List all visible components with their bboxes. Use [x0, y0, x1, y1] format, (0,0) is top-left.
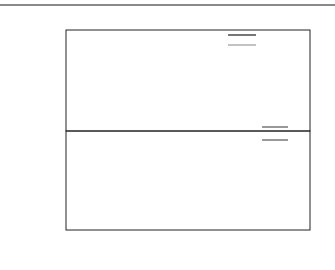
spectrum-chart [0, 0, 335, 270]
top-plot-frame [66, 30, 310, 131]
bottom-plot-frame [66, 131, 310, 230]
legend [228, 35, 256, 45]
